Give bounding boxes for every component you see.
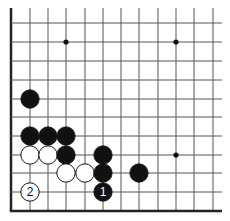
black-stone-icon <box>21 90 39 108</box>
black-stone <box>94 164 112 182</box>
move-number-label: 2 <box>27 185 34 199</box>
black-stone: 1 <box>94 183 112 201</box>
black-stone <box>57 146 75 164</box>
white-stone-icon <box>76 164 94 182</box>
black-stone-icon <box>21 127 39 145</box>
black-stone <box>21 90 39 108</box>
black-stone <box>57 127 75 145</box>
black-stone <box>130 164 148 182</box>
black-stone <box>21 127 39 145</box>
black-stone-icon <box>130 164 148 182</box>
white-stone <box>76 164 94 182</box>
board-grid <box>10 8 222 211</box>
star-point-icon <box>173 39 178 44</box>
white-stone: 2 <box>21 183 39 201</box>
black-stone <box>39 127 57 145</box>
white-stone-icon <box>39 146 57 164</box>
black-stone-icon <box>57 127 75 145</box>
go-board: 21 <box>0 0 230 221</box>
star-point-icon <box>63 39 68 44</box>
white-stone <box>21 146 39 164</box>
white-stone <box>39 146 57 164</box>
move-number-label: 1 <box>100 185 107 199</box>
star-point-icon <box>173 152 178 157</box>
black-stone-icon <box>94 146 112 164</box>
white-stone-icon <box>57 164 75 182</box>
black-stone-icon <box>94 164 112 182</box>
black-stone <box>94 146 112 164</box>
white-stone <box>57 164 75 182</box>
black-stone-icon <box>39 127 57 145</box>
black-stone-icon <box>57 146 75 164</box>
white-stone-icon <box>21 146 39 164</box>
